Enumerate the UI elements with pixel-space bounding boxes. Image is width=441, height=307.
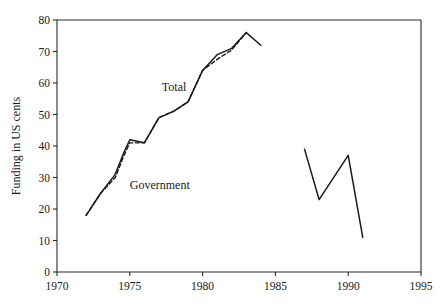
- x-tick-label: 1975: [118, 280, 141, 292]
- x-tick-label: 1995: [410, 280, 433, 292]
- y-tick-labels: 01020304050607080: [39, 14, 51, 278]
- y-tick-label: 30: [39, 172, 51, 184]
- series-line-later-period: [305, 149, 363, 237]
- series-annotations: TotalGovernment: [130, 80, 191, 192]
- y-tick-label: 70: [39, 46, 51, 58]
- axes: [57, 20, 421, 272]
- annotation-government: Government: [130, 178, 191, 192]
- y-tick-label: 20: [39, 203, 51, 215]
- y-tick-label: 10: [39, 235, 51, 247]
- y-tick-label: 50: [39, 109, 51, 121]
- chart-figure: 01020304050607080 1970197519801985199019…: [0, 0, 441, 307]
- tick-marks: [53, 20, 421, 276]
- x-tick-labels: 197019751980198519901995: [46, 280, 433, 292]
- x-tick-label: 1980: [191, 280, 214, 292]
- y-tick-label: 60: [39, 77, 51, 89]
- axis-spines: [57, 20, 421, 272]
- x-tick-label: 1990: [337, 280, 360, 292]
- y-tick-label: 40: [39, 140, 51, 152]
- y-tick-label: 0: [44, 266, 50, 278]
- line-chart-svg: 01020304050607080 1970197519801985199019…: [0, 0, 441, 307]
- data-series: [86, 33, 363, 238]
- y-tick-label: 80: [39, 14, 51, 26]
- x-tick-label: 1985: [264, 280, 287, 292]
- x-tick-label: 1970: [46, 280, 69, 292]
- y-axis-title: Funding in US cents: [9, 97, 23, 196]
- annotation-total: Total: [162, 80, 187, 94]
